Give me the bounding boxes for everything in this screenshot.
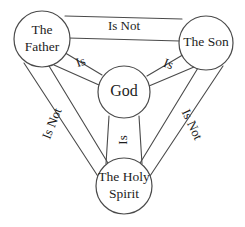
trinity-diagram-canvas: The Father The Son God The Holy Spirit I… (0, 0, 245, 227)
node-label-father-line1: The (32, 22, 53, 37)
node-label-son: The Son (183, 34, 229, 49)
band-father-spirit (24, 61, 114, 181)
band-god-spirit-left-line (106, 116, 109, 164)
node-label-father-line2: Father (25, 39, 60, 54)
relation-label-father-son: Is Not (108, 18, 141, 33)
relation-label-son-holy-spirit: Is Not (179, 107, 206, 143)
relation-label-god-holy-spirit: Is (115, 135, 130, 144)
relation-label-father-holy-spirit: Is Not (39, 105, 65, 141)
node-label-holy-spirit-line2: Spirit (109, 186, 139, 201)
band-god-spirit-right-line (139, 116, 142, 164)
band-father-god-lower-line (54, 65, 99, 85)
node-label-holy-spirit-line1: The Holy (98, 169, 150, 184)
node-label-god: God (110, 82, 138, 99)
relation-label-son-god: Is (162, 55, 176, 72)
trinity-diagram: The Father The Son God The Holy Spirit I… (0, 0, 245, 227)
band-father-son-inner-line (68, 38, 180, 41)
band-son-god-lower-line (149, 67, 194, 86)
relation-label-father-god: Is (74, 53, 88, 70)
